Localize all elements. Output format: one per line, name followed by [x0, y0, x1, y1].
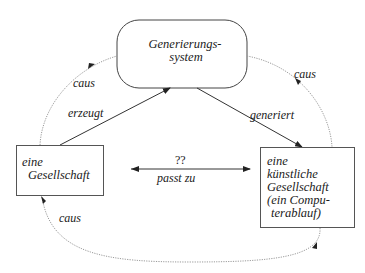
label-match-question: ??: [175, 154, 186, 167]
label-caus-top-left: caus: [73, 77, 95, 90]
edge-caus-top-left: [40, 56, 117, 145]
society-label-line2: Gesellschaft: [22, 169, 90, 182]
label-generiert: generiert: [250, 109, 294, 122]
artificial-label-line5: terablauf): [267, 207, 330, 220]
label-passt-zu: passt zu: [157, 172, 195, 185]
label-caus-bottom: caus: [59, 212, 81, 225]
generator-label-line2: system: [140, 51, 230, 64]
label-erzeugt: erzeugt: [68, 107, 103, 120]
artificial-society-node: eine künstliche Gesellschaft (ein Compu-…: [267, 155, 330, 220]
label-caus-top-right: caus: [294, 68, 316, 81]
society-node: eine Gesellschaft: [22, 156, 90, 182]
generator-node: Generierungs- system: [140, 38, 230, 64]
edge-caus-top-right: [247, 56, 332, 147]
